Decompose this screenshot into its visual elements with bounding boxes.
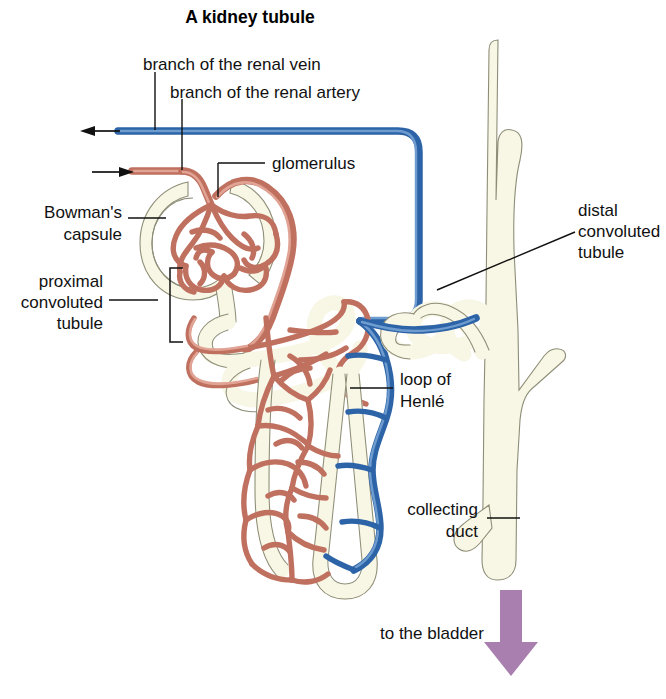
label-distal-convoluted-tubule: distal convoluted tubule	[578, 201, 660, 262]
label-loop-line2: Henlé	[400, 392, 444, 411]
vein-flow-arrow	[80, 126, 120, 136]
label-proximal-line2: convoluted	[21, 293, 103, 312]
kidney-tubule-diagram: A kidney tubule	[0, 0, 666, 699]
label-to-the-bladder: to the bladder	[380, 624, 484, 643]
label-renal-vein: branch of the renal vein	[143, 55, 321, 74]
label-renal-artery: branch of the renal artery	[170, 83, 360, 102]
label-distal-line1: distal	[578, 201, 618, 220]
label-proximal-line3: tubule	[57, 314, 103, 333]
label-bowmans-capsule: Bowman's capsule	[44, 203, 122, 244]
label-bowmans-capsule-line2: capsule	[63, 225, 122, 244]
label-distal-line3: tubule	[578, 243, 624, 262]
label-loop-line1: loop of	[400, 370, 451, 389]
artery-flow-arrow	[92, 167, 134, 177]
label-glomerulus: glomerulus	[272, 154, 355, 173]
bladder-flow-arrow-icon	[484, 590, 538, 676]
label-bowmans-capsule-line1: Bowman's	[44, 203, 122, 222]
nephron-illustration: A kidney tubule	[0, 0, 666, 699]
label-collecting-line2: duct	[446, 522, 478, 541]
label-proximal-convoluted-tubule: proximal convoluted tubule	[21, 272, 103, 333]
figure-title: A kidney tubule	[185, 7, 315, 27]
label-loop-of-henle: loop of Henlé	[400, 370, 451, 411]
label-distal-line2: convoluted	[578, 222, 660, 241]
label-proximal-line1: proximal	[39, 272, 103, 291]
label-collecting-line1: collecting	[407, 500, 478, 519]
